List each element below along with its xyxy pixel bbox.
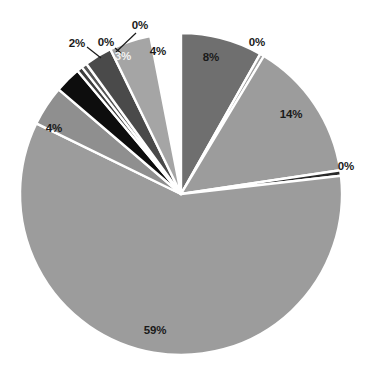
leader-2pct-icon xyxy=(87,47,101,58)
pie-chart: 8%0%14%0%59%4%2%0%0%3%4% xyxy=(0,0,367,375)
pie-chart-canvas xyxy=(0,0,367,375)
pie-slice-group xyxy=(20,33,342,355)
